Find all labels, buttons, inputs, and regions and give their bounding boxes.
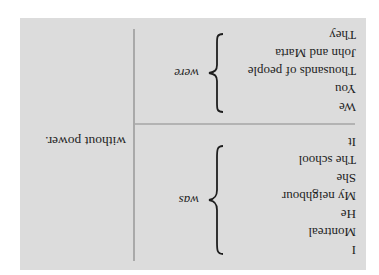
grammar-table-panel: I Montreal He My neighbour She The schoo… <box>20 18 366 270</box>
subject-item: We <box>248 100 356 115</box>
subject-item: She <box>282 171 356 186</box>
group-divider <box>135 123 355 125</box>
subject-item: You <box>248 82 356 97</box>
plural-subjects-list: We You Thousands of people John and Mart… <box>248 28 356 115</box>
subject-item: My neighbour <box>282 189 356 204</box>
singular-subjects-list: I Montreal He My neighbour She The schoo… <box>282 135 356 258</box>
subject-item: He <box>282 207 356 222</box>
verb-were: were <box>174 66 199 81</box>
subject-item: Thousands of people <box>248 64 356 79</box>
subject-item: Montreal <box>282 225 356 240</box>
curly-brace-icon <box>206 32 226 114</box>
subject-item: The school <box>282 153 356 168</box>
verb-was: was <box>179 193 199 208</box>
subject-item: I <box>282 243 356 258</box>
curly-brace-icon <box>206 144 226 256</box>
rotated-stage: I Montreal He My neighbour She The schoo… <box>0 0 379 275</box>
subject-item: It <box>282 135 356 150</box>
complement-text: without power. <box>45 134 126 149</box>
subject-item: John and Marta <box>248 46 356 61</box>
subject-item: They <box>248 28 356 43</box>
column-divider <box>133 29 135 261</box>
